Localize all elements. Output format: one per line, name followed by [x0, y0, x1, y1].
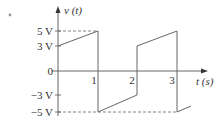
y-axis-label: v (t)	[64, 4, 82, 17]
x-tick-label-1: 1	[91, 74, 97, 86]
y-tick-label-neg5v: −5 V	[31, 106, 53, 118]
y-axis-arrow-icon	[56, 6, 61, 13]
x-tick-label-3: 3	[169, 74, 175, 86]
waveform-line	[58, 31, 191, 112]
x-axis-arrow-icon	[201, 69, 208, 74]
y-tick-label-neg3v: −3 V	[31, 89, 53, 101]
y-tick-label-3v: 3 V	[37, 40, 53, 52]
waveform-figure: v (t) 5 V 3 V 0 −3 V −5 V 1 2 3 t (s)	[0, 0, 224, 126]
x-axis-label: t (s)	[196, 75, 214, 88]
y-tick-label-0: 0	[48, 65, 54, 77]
y-tick-label-5v: 5 V	[37, 25, 53, 37]
x-tick-label-2: 2	[129, 74, 135, 86]
bullet-marker	[9, 14, 12, 17]
